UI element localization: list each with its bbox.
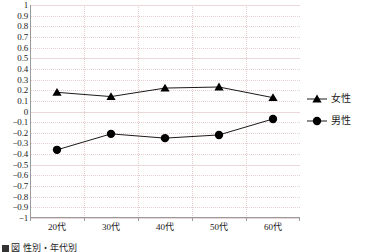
series-plot: [30, 5, 300, 218]
y-axis-tick-label: 0.6: [2, 44, 28, 53]
chart-legend: 女性男性: [306, 88, 365, 132]
y-axis-tick-label: 0.9: [2, 12, 28, 21]
y-axis-tick-label: −0.4: [2, 150, 28, 159]
x-axis-tick-label: 50代: [192, 221, 246, 233]
data-point-marker-triangle: [312, 95, 321, 103]
x-axis-tick-label: 40代: [138, 221, 192, 233]
y-axis-tick-label: −0.1: [2, 118, 28, 127]
data-point-marker-circle: [161, 134, 169, 142]
y-axis-tick-label: 0.5: [2, 54, 28, 63]
y-axis-tick-label: −0.7: [2, 182, 28, 191]
x-axis-labels: 20代30代40代50代60代: [30, 221, 300, 237]
y-axis-tick-label: 1: [2, 1, 28, 10]
series-male: [53, 115, 277, 154]
y-axis-tick-label: −0.3: [2, 139, 28, 148]
data-point-marker-circle: [53, 146, 61, 154]
y-axis-tick-label: −1: [2, 214, 28, 223]
x-axis-tick-label: 60代: [246, 221, 300, 233]
y-axis-tick-label: −0.8: [2, 193, 28, 202]
figure-caption: 図 性別・年代別: [2, 243, 365, 252]
series-female: [52, 83, 277, 101]
y-axis-tick-label: −0.9: [2, 203, 28, 212]
data-point-marker-circle: [313, 117, 321, 125]
caption-text: 図 性別・年代別: [11, 243, 77, 252]
figure-line-chart: 10.90.80.70.60.50.40.30.20.10−0.1−0.2−0.…: [0, 0, 365, 252]
y-axis-tick-label: 0.8: [2, 22, 28, 31]
y-axis-tick-label: 0.4: [2, 65, 28, 74]
y-axis-tick-label: −0.5: [2, 161, 28, 170]
y-axis-tick-label: 0: [2, 108, 28, 117]
x-axis-tick-label: 30代: [84, 221, 138, 233]
data-point-marker-triangle: [52, 88, 61, 96]
y-axis-tick-label: 0.3: [2, 76, 28, 85]
y-axis-tick-label: 0.1: [2, 97, 28, 106]
caption-bullet-icon: [2, 245, 9, 252]
legend-label: 女性: [328, 93, 351, 105]
legend-label: 男性: [328, 115, 351, 127]
data-point-marker-circle: [107, 130, 115, 138]
data-point-marker-triangle: [214, 83, 223, 91]
legend-item-female[interactable]: 女性: [306, 88, 365, 110]
y-axis-tick-label: 0.7: [2, 33, 28, 42]
legend-circle-icon: [306, 115, 328, 127]
data-point-marker-circle: [215, 131, 223, 139]
y-axis-tick-label: −0.2: [2, 129, 28, 138]
x-axis-tick-label: 20代: [30, 221, 84, 233]
y-axis-labels: 10.90.80.70.60.50.40.30.20.10−0.1−0.2−0.…: [0, 0, 28, 252]
plot-area: [30, 5, 300, 218]
gridline-y: [30, 218, 300, 220]
y-axis-tick-label: 0.2: [2, 86, 28, 95]
y-axis-tick-label: −0.6: [2, 171, 28, 180]
legend-item-male[interactable]: 男性: [306, 110, 365, 132]
data-point-marker-circle: [269, 115, 277, 123]
legend-triangle-icon: [306, 93, 328, 105]
